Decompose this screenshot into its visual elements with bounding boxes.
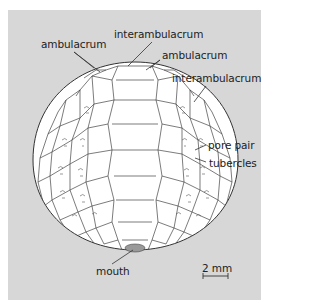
scale-bar-label: 2 mm (202, 262, 232, 274)
mouth-region (125, 244, 145, 252)
label-ambulacrum-left: ambulacrum (41, 38, 106, 50)
label-ambulacrum-right: ambulacrum (162, 49, 227, 61)
label-interambulacrum-top: interambulacrum (114, 28, 203, 40)
label-pore-pair: pore pair (208, 139, 254, 151)
label-interambulacrum-right: interambulacrum (172, 72, 261, 84)
label-mouth: mouth (96, 265, 130, 277)
label-tubercles: tubercles (209, 157, 257, 169)
